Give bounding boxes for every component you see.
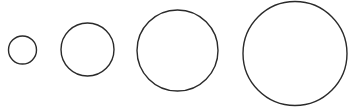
background <box>0 0 348 110</box>
circles-diagram <box>0 0 348 110</box>
